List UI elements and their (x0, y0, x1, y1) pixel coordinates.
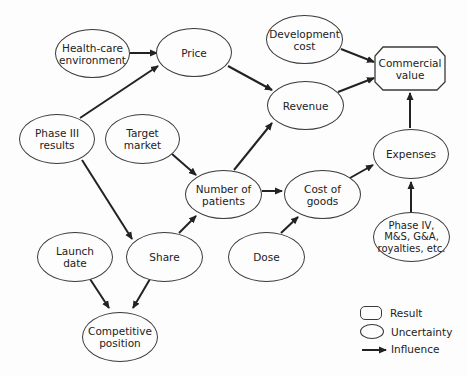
legend-influence-label: Influence (391, 343, 439, 355)
uncertainty-shape-icon (360, 324, 384, 339)
legend-result: Result (360, 306, 422, 320)
node-development-cost: Development cost (266, 15, 343, 64)
node-competitive-position: Competitive position (82, 312, 158, 362)
edge-share-competitive (133, 279, 150, 308)
node-cost-of-goods: Cost of goods (284, 170, 361, 219)
edge-phase3-share (82, 160, 132, 239)
node-share: Share (126, 232, 203, 282)
result-shape-icon (360, 306, 382, 320)
edge-launch-competitive (90, 279, 109, 308)
edge-target-patients (172, 154, 196, 175)
node-number-of-patients: Number of patients (185, 170, 262, 219)
edge-devcost-commercial (341, 49, 374, 62)
node-healthcare-environment: Health-care environment (55, 29, 130, 78)
edge-share-patients (179, 216, 196, 233)
legend-influence: Influence (391, 343, 439, 355)
node-price: Price (156, 28, 232, 77)
edge-cost-expenses (350, 165, 373, 178)
node-expenses: Expenses (373, 129, 449, 179)
node-revenue: Revenue (267, 81, 344, 130)
edge-revenue-commercial (338, 78, 374, 92)
node-commercial-value: Commercial value (375, 47, 445, 90)
edge-dose-cost (281, 217, 298, 233)
node-phase3-results: Phase III results (19, 114, 95, 164)
node-dose: Dose (228, 232, 305, 282)
edge-price-revenue (228, 66, 272, 90)
legend-result-label: Result (390, 307, 422, 319)
node-launch-date: Launch date (37, 232, 113, 282)
legend-uncertainty-label: Uncertainty (391, 326, 452, 338)
edge-patients-revenue (234, 123, 272, 170)
node-target-market: Target market (105, 114, 180, 164)
node-phase4-msga: Phase IV, M&S, G&A, royalties, etc. (373, 212, 450, 262)
legend-uncertainty: Uncertainty (360, 324, 452, 339)
